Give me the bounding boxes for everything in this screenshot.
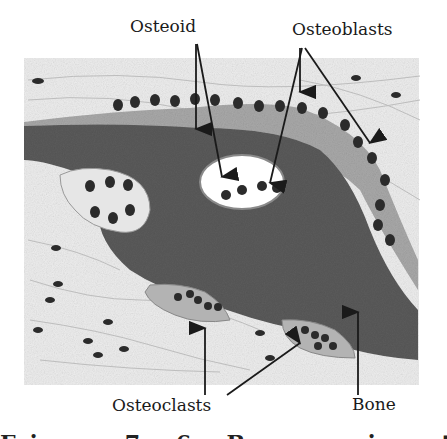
bone-histology-illustration bbox=[0, 0, 447, 439]
label-osteoblasts: Osteoblasts bbox=[292, 21, 393, 38]
figure-caption: Fig. 7.6 Bone in the process of developm… bbox=[0, 430, 447, 439]
label-bone: Bone bbox=[352, 396, 396, 413]
label-osteoid: Osteoid bbox=[130, 18, 196, 35]
label-osteoclasts: Osteoclasts bbox=[112, 397, 211, 414]
cavity-center bbox=[200, 155, 284, 209]
